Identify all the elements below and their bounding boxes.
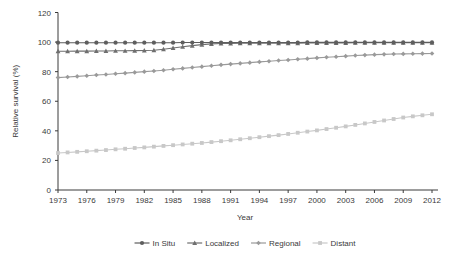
data-point [210,140,214,144]
y-tick-label-40: 40 [42,127,51,136]
data-point [343,54,348,59]
legend-marker-diamond [256,241,261,246]
data-point [85,149,89,153]
data-point [238,40,242,44]
data-point [401,116,405,120]
x-tick-label-1985: 1985 [164,196,182,205]
data-point [392,117,396,121]
legend-item-regional[interactable]: Regional [251,239,301,248]
data-point [132,70,137,75]
legend-marker-square [318,241,322,245]
data-point [161,68,166,73]
legend-label-distant: Distant [331,239,357,248]
x-tick-label-1979: 1979 [107,196,125,205]
data-point [401,40,405,44]
data-point [56,75,61,80]
data-point [277,133,281,137]
data-point [363,122,367,126]
data-point [363,40,367,44]
x-tick-label-1997: 1997 [279,196,297,205]
legend-item-localized[interactable]: Localized [187,239,239,248]
legend-item-distant[interactable]: Distant [313,239,357,248]
data-point [190,40,194,44]
legend-label-in-situ: In Situ [153,239,176,248]
data-point [363,53,368,58]
legend-label-localized: Localized [205,239,239,248]
y-tick-label-100: 100 [38,38,52,47]
data-point [334,40,338,44]
data-point [228,62,233,67]
data-point [229,138,233,142]
data-point [171,41,175,45]
data-point [353,40,357,44]
x-tick-label-1973: 1973 [49,196,67,205]
data-point [56,151,60,155]
data-point [75,41,79,45]
data-point [267,40,271,44]
data-point [430,112,434,116]
data-point [152,69,157,74]
data-point [286,58,291,63]
series-regional [56,51,435,80]
data-point [200,141,204,145]
data-point [200,64,205,69]
data-point [56,41,60,45]
y-tick-label-120: 120 [38,9,52,18]
chart-figure: 0204060801001201973197619791982198519881… [0,0,454,260]
data-point [209,40,213,44]
data-point [162,144,166,148]
legend-label-regional: Regional [269,239,301,248]
data-point [219,139,223,143]
y-axis-title: Relative survival (%) [11,64,20,137]
data-point [382,52,387,57]
x-tick-label-2003: 2003 [337,196,355,205]
data-point [66,151,70,155]
data-point [296,40,300,44]
x-tick-label-1994: 1994 [250,196,268,205]
legend-item-in-situ[interactable]: In Situ [135,239,176,248]
data-point [353,53,358,58]
data-point [324,40,328,44]
data-point [257,40,261,44]
data-point [161,41,165,45]
data-point [401,52,406,57]
y-tick-label-20: 20 [42,156,51,165]
data-point [238,61,243,66]
data-point [229,40,233,44]
data-point [305,56,310,61]
data-point [315,40,319,44]
data-point [219,40,223,44]
x-tick-label-1976: 1976 [78,196,96,205]
data-point [171,67,176,72]
data-point [180,66,185,71]
data-point [171,143,175,147]
data-point [94,73,99,78]
data-point [325,127,329,131]
data-point [372,52,377,57]
data-point [75,150,79,154]
data-point [248,40,252,44]
data-point [104,148,108,152]
data-point [104,72,109,77]
data-point [85,41,89,45]
data-point [94,41,98,45]
x-tick-label-1988: 1988 [193,196,211,205]
data-point [65,41,69,45]
x-tick-label-2006: 2006 [366,196,384,205]
data-point [315,128,319,132]
data-point [420,40,424,44]
data-point [334,54,339,59]
data-point [142,69,147,74]
chart-legend: In SituLocalizedRegionalDistant [135,239,357,248]
data-point [123,147,127,151]
data-point [133,146,137,150]
data-point [142,41,146,45]
data-point [181,143,185,147]
data-point [373,120,377,124]
data-point [305,130,309,134]
data-point [344,124,348,128]
y-tick-label-0: 0 [47,186,52,195]
data-point [372,40,376,44]
data-point [219,63,224,68]
y-tick-label-80: 80 [42,68,51,77]
